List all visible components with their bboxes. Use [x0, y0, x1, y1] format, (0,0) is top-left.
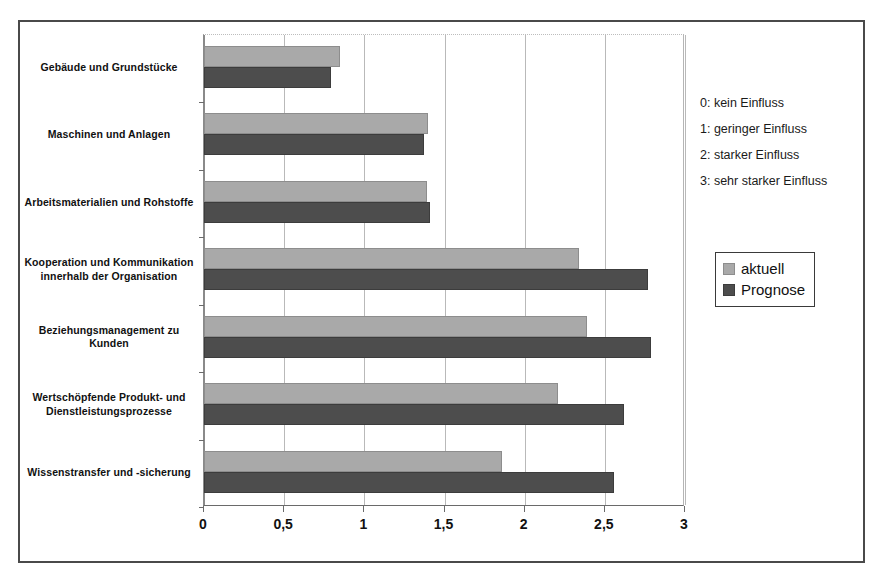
x-axis-label: 0: [199, 516, 207, 532]
category-label: Wertschöpfende Produkt- und Dienstleistu…: [20, 391, 198, 418]
scale-key-line: 0: kein Einfluss: [700, 90, 870, 116]
x-axis-tick: [363, 506, 364, 512]
category-label: Arbeitsmaterialien und Rohstoffe: [20, 196, 198, 210]
scale-key-line: 3: sehr starker Einfluss: [700, 168, 870, 194]
bar-group: [204, 440, 683, 507]
bar-aktuell: [204, 383, 558, 404]
category-label-wrap: Arbeitsmaterialien und Rohstoffe: [20, 169, 198, 236]
bar-prognose: [204, 67, 331, 88]
category-label: Wissenstransfer und -sicherung: [20, 466, 198, 480]
category-label: Beziehungsmanagement zu Kunden: [20, 324, 198, 351]
x-axis-label: 1: [359, 516, 367, 532]
legend-item: aktuell: [723, 258, 805, 279]
scale-key-line: 2: starker Einfluss: [700, 142, 870, 168]
category-axis-labels: Gebäude und GrundstückeMaschinen und Anl…: [20, 34, 203, 506]
bar-aktuell: [204, 46, 340, 67]
chart-legend: aktuellPrognose: [715, 252, 815, 307]
bar-group: [204, 170, 683, 237]
category-label-wrap: Maschinen und Anlagen: [20, 101, 198, 168]
bar-aktuell: [204, 316, 587, 337]
bar-aktuell: [204, 113, 428, 134]
bar-group: [204, 372, 683, 439]
x-axis-tick: [684, 506, 685, 512]
x-axis-tick: [203, 506, 204, 512]
bar-prognose: [204, 404, 624, 425]
x-axis-tick: [524, 506, 525, 512]
gridline: [685, 35, 686, 505]
category-label: Gebäude und Grundstücke: [20, 61, 198, 75]
bar-prognose: [204, 134, 424, 155]
bar-group: [204, 305, 683, 372]
bar-prognose: [204, 337, 651, 358]
bar-aktuell: [204, 451, 502, 472]
bar-aktuell: [204, 181, 427, 202]
bar-aktuell: [204, 248, 579, 269]
x-axis-label: 0,5: [273, 516, 292, 532]
legend-item: Prognose: [723, 279, 805, 300]
category-label-wrap: Wissenstransfer und -sicherung: [20, 439, 198, 506]
legend-label: Prognose: [741, 279, 805, 300]
x-axis-tick: [283, 506, 284, 512]
category-label-wrap: Wertschöpfende Produkt- und Dienstleistu…: [20, 371, 198, 438]
x-axis-label: 2,5: [594, 516, 613, 532]
category-label-wrap: Beziehungsmanagement zu Kunden: [20, 304, 198, 371]
category-label-wrap: Kooperation und Kommunikation innerhalb …: [20, 236, 198, 303]
bar-prognose: [204, 269, 648, 290]
chart-figure: Gebäude und GrundstückeMaschinen und Anl…: [18, 20, 865, 563]
bar-group: [204, 35, 683, 102]
category-label: Kooperation und Kommunikation innerhalb …: [20, 256, 198, 283]
legend-label: aktuell: [741, 258, 784, 279]
scale-key-line: 1: geringer Einfluss: [700, 116, 870, 142]
plot-area: [203, 34, 684, 506]
legend-swatch-icon: [723, 263, 735, 275]
bar-group: [204, 102, 683, 169]
category-label: Maschinen und Anlagen: [20, 128, 198, 142]
x-axis-label: 2: [520, 516, 528, 532]
bar-prognose: [204, 472, 614, 493]
scale-key: 0: kein Einfluss1: geringer Einfluss2: s…: [700, 90, 870, 194]
legend-swatch-icon: [723, 284, 735, 296]
bar-prognose: [204, 202, 430, 223]
bar-group: [204, 237, 683, 304]
x-axis-tick: [604, 506, 605, 512]
x-axis-tick: [444, 506, 445, 512]
x-axis: 00,511,522,53: [203, 506, 684, 540]
x-axis-label: 3: [680, 516, 688, 532]
x-axis-label: 1,5: [434, 516, 453, 532]
category-label-wrap: Gebäude und Grundstücke: [20, 34, 198, 101]
